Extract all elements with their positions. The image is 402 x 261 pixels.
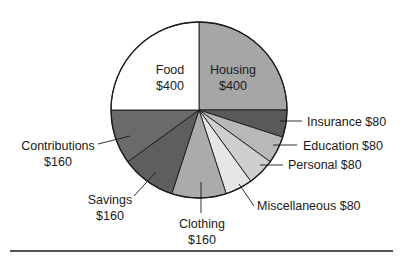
label-contributions-amount: $160	[44, 155, 72, 169]
label-personal: Personal $80	[288, 158, 362, 172]
label-insurance: Insurance $80	[307, 115, 386, 129]
label-savings-amount: $160	[96, 209, 124, 223]
label-housing-amount: $400	[219, 79, 247, 93]
label-clothing-amount: $160	[188, 233, 216, 247]
label-clothing-name: Clothing	[179, 217, 225, 231]
bottom-rule	[10, 250, 393, 252]
label-education: Education $80	[303, 139, 383, 153]
label-food-amount: $400	[156, 79, 184, 93]
label-food-name: Food	[156, 63, 185, 77]
pie-chart: Food $400 Housing $400 Insurance $80 Edu…	[0, 0, 402, 261]
label-miscellaneous: Miscellaneous $80	[257, 199, 361, 213]
label-housing-name: Housing	[210, 63, 256, 77]
label-savings-name: Savings	[88, 193, 132, 207]
pie-slices	[111, 22, 287, 198]
label-contributions-name: Contributions	[21, 139, 95, 153]
